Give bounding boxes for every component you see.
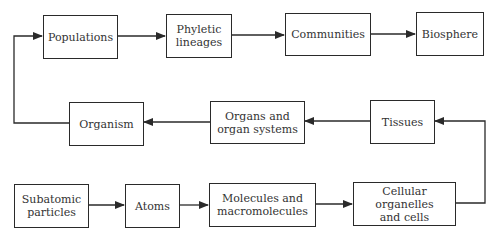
node-label: Atoms <box>135 200 170 213</box>
node-label: Tissues <box>382 116 423 129</box>
node-label: Subatomicparticles <box>22 193 81 219</box>
node-molecules: Molecules andmacromolecules <box>209 183 316 227</box>
node-label: Communities <box>291 28 365 41</box>
node-tissues: Tissues <box>370 100 435 144</box>
node-communities: Communities <box>285 13 371 56</box>
node-populations: Populations <box>43 15 118 59</box>
node-label: Phyleticlineages <box>176 23 222 49</box>
node-organism: Organism <box>69 102 144 146</box>
node-label: Organism <box>79 118 134 131</box>
node-label: Biosphere <box>422 28 478 41</box>
node-label: Cellular organellesand cells <box>354 185 455 224</box>
node-atoms: Atoms <box>125 184 180 228</box>
node-biosphere: Biosphere <box>416 12 484 56</box>
node-phyletic-lineages: Phyleticlineages <box>166 14 232 58</box>
node-organs: Organs andorgan systems <box>210 101 305 144</box>
node-label: Organs andorgan systems <box>217 110 298 136</box>
node-label: Populations <box>48 31 113 44</box>
node-subatomic-particles: Subatomicparticles <box>14 184 89 228</box>
node-cellular-organelles: Cellular organellesand cells <box>353 182 456 226</box>
diagram-canvas: Populations Phyleticlineages Communities… <box>0 0 496 237</box>
node-label: Molecules andmacromolecules <box>217 192 308 218</box>
